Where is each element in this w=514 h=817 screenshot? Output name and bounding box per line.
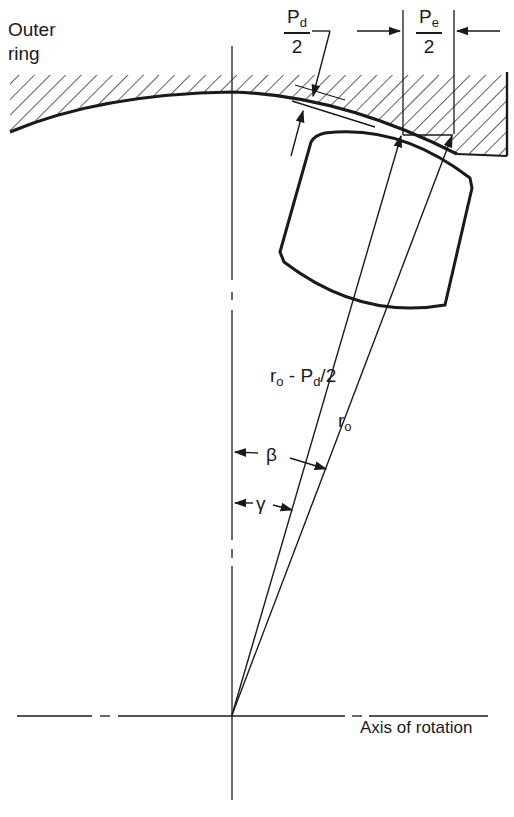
ro-minus-pd-over-2-label: ro - Pd/2 <box>270 365 336 387</box>
pd-denominator: 2 <box>284 36 310 58</box>
pd-over-2-label: Pd 2 <box>284 6 310 58</box>
pe-denominator: 2 <box>416 36 442 58</box>
roller-bearing-geometry-diagram <box>0 0 514 817</box>
pe-fraction-bar <box>416 32 442 34</box>
axis-of-rotation-label: Axis of rotation <box>360 718 472 738</box>
outer-ring-label: Outer ring <box>8 18 56 66</box>
gamma-arrow-right <box>273 505 292 510</box>
pd-arrow-up <box>291 111 303 156</box>
beta-arrow-left <box>235 452 258 453</box>
pd-numerator: Pd <box>284 6 310 30</box>
pe-over-2-label: Pe 2 <box>416 6 442 58</box>
pe-numerator: Pe <box>416 6 442 30</box>
outer-ring <box>10 72 507 156</box>
gamma-label: γ <box>256 493 266 515</box>
pd-fraction-bar <box>284 32 310 34</box>
ro-label: ro <box>338 410 352 432</box>
beta-label: β <box>266 444 277 466</box>
beta-arrow-right <box>290 458 326 469</box>
outer-ring-label-line2: ring <box>8 42 56 66</box>
outer-ring-label-line1: Outer <box>8 18 56 42</box>
